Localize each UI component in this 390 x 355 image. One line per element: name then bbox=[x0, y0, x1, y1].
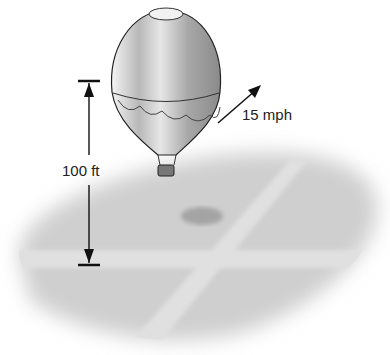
hot-air-balloon bbox=[112, 8, 221, 176]
balloon-diagram bbox=[0, 0, 390, 355]
height-label: 100 ft bbox=[62, 162, 100, 179]
road-horizontal bbox=[0, 250, 390, 268]
balloon-basket bbox=[158, 165, 174, 176]
ground-field bbox=[0, 152, 390, 355]
balloon-shadow bbox=[181, 207, 223, 225]
speed-label: 15 mph bbox=[242, 106, 292, 123]
